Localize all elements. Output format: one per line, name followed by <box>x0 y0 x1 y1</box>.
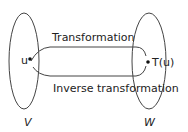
inverse-transformation-path <box>33 66 146 76</box>
point-tu-dot <box>146 60 150 64</box>
point-u-label: u <box>21 54 28 67</box>
set-w-label: W <box>144 116 156 129</box>
inverse-transformation-label: Inverse transformation <box>53 82 179 95</box>
transformation-path <box>31 47 146 61</box>
point-tu-label: T(u) <box>151 56 174 69</box>
set-v-label: V <box>24 116 33 129</box>
mapping-diagram: u T(u) Transformation Inverse transforma… <box>0 0 188 132</box>
point-u-dot <box>28 57 32 61</box>
transformation-label: Transformation <box>51 31 135 44</box>
